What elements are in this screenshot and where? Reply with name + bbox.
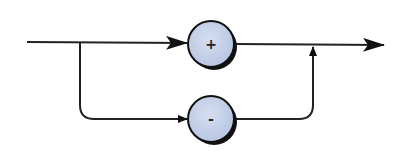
branch-to-minus-line <box>80 42 187 119</box>
input-line <box>27 42 187 43</box>
minus-node-label: - <box>187 95 235 143</box>
plus-node-label: + <box>187 20 235 68</box>
merge-from-minus-line <box>235 47 313 119</box>
output-line <box>235 44 384 45</box>
